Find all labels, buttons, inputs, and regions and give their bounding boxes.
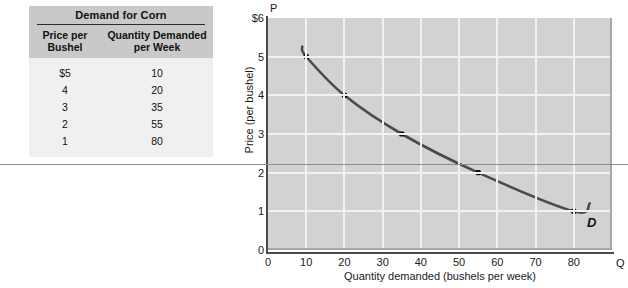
x-axis-tick-label: 50 bbox=[444, 257, 474, 268]
column-header-quantity: Quantity Demanded per Week bbox=[101, 29, 213, 53]
y-axis-tick-label: $6 bbox=[232, 13, 264, 24]
table-row: 2 55 bbox=[29, 115, 213, 132]
x-axis-symbol: Q bbox=[616, 257, 625, 269]
y-axis-tick-label: 4 bbox=[232, 90, 264, 101]
y-axis-symbol: P bbox=[270, 2, 277, 14]
table-row: 1 80 bbox=[29, 132, 213, 149]
table-body: $5 10 4 20 3 35 2 55 1 80 bbox=[29, 58, 213, 157]
cell-price: 1 bbox=[29, 135, 101, 147]
cell-quantity: 20 bbox=[101, 84, 213, 96]
x-axis-line bbox=[266, 252, 614, 254]
y-axis-tick-label: 2 bbox=[232, 168, 264, 179]
column-header-quantity-line1: Quantity Demanded bbox=[101, 29, 213, 41]
gridline-horizontal bbox=[268, 94, 610, 96]
table-row: 3 35 bbox=[29, 98, 213, 115]
gridline-horizontal bbox=[268, 56, 610, 58]
table-row: 4 20 bbox=[29, 81, 213, 98]
y-axis-line bbox=[266, 16, 268, 254]
y-axis-tick-label: 1 bbox=[232, 206, 264, 217]
table-row: $5 10 bbox=[29, 64, 213, 81]
cell-quantity: 55 bbox=[101, 118, 213, 130]
column-header-price-line2: Bushel bbox=[29, 41, 101, 53]
cell-quantity: 35 bbox=[101, 101, 213, 113]
demand-schedule-table: Demand for Corn Price per Bushel Quantit… bbox=[29, 6, 213, 157]
table-title: Demand for Corn bbox=[29, 6, 213, 24]
y-axis-tick-label: 0 bbox=[232, 245, 264, 256]
x-axis-label: Quantity demanded (bushels per week) bbox=[268, 270, 612, 282]
column-header-price-line1: Price per bbox=[29, 29, 101, 41]
gridline-horizontal bbox=[268, 172, 610, 174]
gridline-horizontal bbox=[268, 133, 610, 135]
x-axis-tick-label: 0 bbox=[253, 257, 283, 268]
table-header-row: Price per Bushel Quantity Demanded per W… bbox=[29, 25, 213, 58]
cell-quantity: 10 bbox=[101, 67, 213, 79]
cell-price: 2 bbox=[29, 118, 101, 130]
plot-area bbox=[268, 18, 612, 250]
x-axis-tick-label: 60 bbox=[482, 257, 512, 268]
cell-quantity: 80 bbox=[101, 135, 213, 147]
y-axis-tick-label: 5 bbox=[232, 52, 264, 63]
column-header-price: Price per Bushel bbox=[29, 29, 101, 53]
x-axis-tick-label: 20 bbox=[329, 257, 359, 268]
cell-price: $5 bbox=[29, 67, 101, 79]
cell-price: 4 bbox=[29, 84, 101, 96]
x-axis-tick-label: 10 bbox=[291, 257, 321, 268]
demand-curve-label: D bbox=[587, 215, 596, 230]
y-axis-label: Price (per bushel) bbox=[243, 45, 255, 175]
y-axis-tick-label: 3 bbox=[232, 129, 264, 140]
x-axis-tick-label: 40 bbox=[406, 257, 436, 268]
x-axis-tick-label: 70 bbox=[521, 257, 551, 268]
gridline-horizontal bbox=[268, 210, 610, 212]
table-header-band: Demand for Corn Price per Bushel Quantit… bbox=[29, 6, 213, 58]
cell-price: 3 bbox=[29, 101, 101, 113]
column-header-quantity-line2: per Week bbox=[101, 41, 213, 53]
demand-curve-chart: P Q Price (per bushel) Quantity demanded… bbox=[232, 0, 628, 288]
chart-divider-rule bbox=[232, 164, 628, 165]
x-axis-tick-label: 80 bbox=[559, 257, 589, 268]
x-axis-tick-label: 30 bbox=[368, 257, 398, 268]
